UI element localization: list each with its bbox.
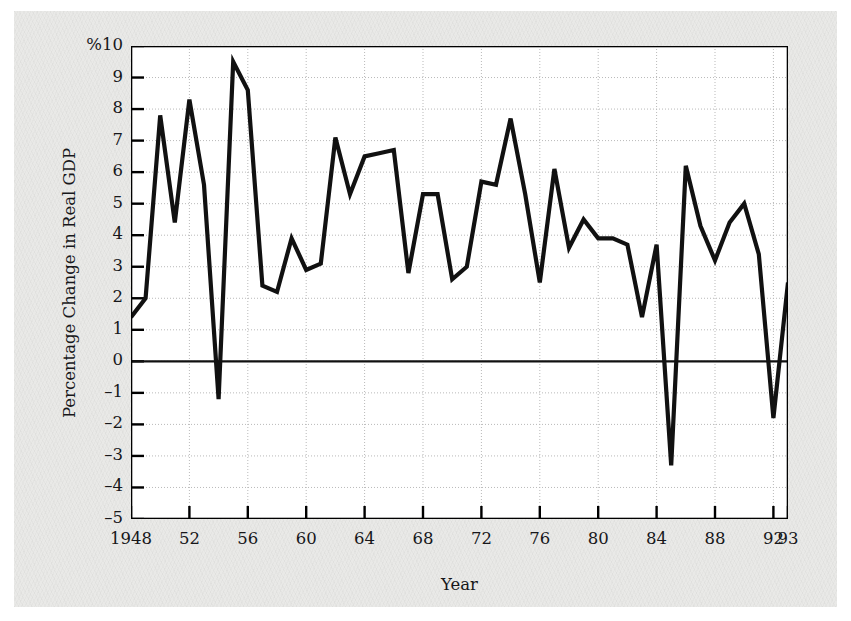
figure-root: Percentage Change in Real GDP Year %1098… xyxy=(0,0,851,621)
y-tick-label: 0 xyxy=(79,350,123,369)
y-tick-label: 9 xyxy=(79,67,123,86)
y-tick-label: –4 xyxy=(79,476,123,495)
plot-area xyxy=(131,46,788,519)
x-tick-label: 1948 xyxy=(108,529,154,548)
x-tick-label: 56 xyxy=(225,529,271,548)
x-tick-label: 60 xyxy=(283,529,329,548)
y-tick-label: 7 xyxy=(79,130,123,149)
x-tick-label: 64 xyxy=(342,529,388,548)
y-tick-label: 8 xyxy=(79,98,123,117)
y-tick-label: 6 xyxy=(79,161,123,180)
y-axis-title-label: Percentage Change in Real GDP xyxy=(60,147,79,417)
x-tick-label: 76 xyxy=(517,529,563,548)
y-tick-label: –1 xyxy=(79,382,123,401)
y-tick-label: %10 xyxy=(63,35,123,54)
x-tick-label: 52 xyxy=(166,529,212,548)
x-tick-label: 84 xyxy=(634,529,680,548)
y-tick-label: –5 xyxy=(79,508,123,527)
x-tick-label: 72 xyxy=(458,529,504,548)
x-axis-title: Year xyxy=(131,575,788,594)
y-tick-label: 4 xyxy=(79,224,123,243)
x-tick-label: 93 xyxy=(765,529,811,548)
x-tick-label: 80 xyxy=(575,529,621,548)
y-tick-label: 1 xyxy=(79,319,123,338)
x-tick-label: 68 xyxy=(400,529,446,548)
y-tick-label: –2 xyxy=(79,413,123,432)
y-tick-label: 5 xyxy=(79,193,123,212)
y-tick-label: 2 xyxy=(79,287,123,306)
x-tick-label: 88 xyxy=(692,529,738,548)
y-tick-label: 3 xyxy=(79,256,123,275)
gdp-line-chart xyxy=(131,46,788,519)
y-tick-label: –3 xyxy=(79,445,123,464)
